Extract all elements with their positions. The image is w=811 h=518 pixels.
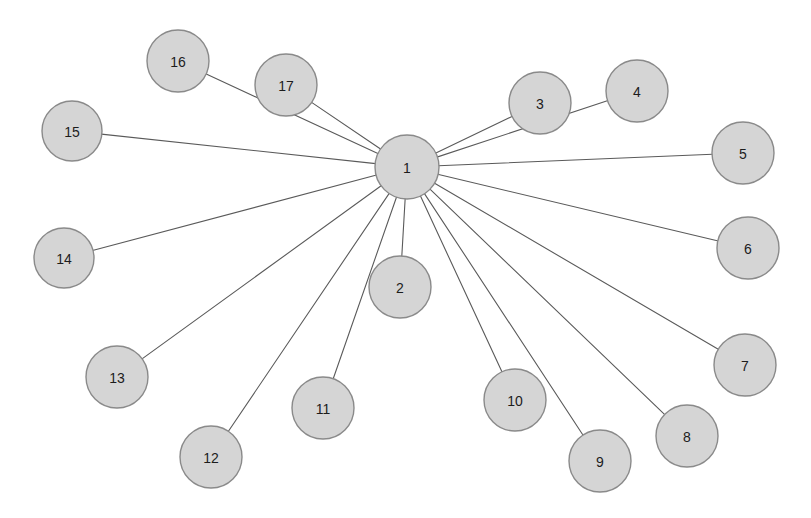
edge-1-5 bbox=[438, 154, 712, 165]
graph-node-8[interactable]: 8 bbox=[656, 405, 718, 467]
graph-node-3[interactable]: 3 bbox=[509, 72, 571, 134]
node-label-8: 8 bbox=[683, 429, 691, 445]
graph-node-15[interactable]: 15 bbox=[42, 101, 102, 161]
graph-node-13[interactable]: 13 bbox=[86, 346, 148, 408]
node-label-4: 4 bbox=[633, 84, 641, 100]
node-label-9: 9 bbox=[596, 454, 604, 470]
node-label-17: 17 bbox=[278, 78, 294, 94]
node-label-6: 6 bbox=[744, 241, 752, 257]
node-label-13: 13 bbox=[109, 370, 125, 386]
graph-node-12[interactable]: 12 bbox=[180, 426, 242, 488]
graph-node-6[interactable]: 6 bbox=[717, 217, 779, 279]
edge-1-7 bbox=[434, 183, 719, 350]
node-label-12: 12 bbox=[203, 450, 219, 466]
edge-1-10 bbox=[420, 196, 502, 373]
edge-1-2 bbox=[402, 198, 405, 256]
graph-node-11[interactable]: 11 bbox=[292, 377, 354, 439]
edge-1-17 bbox=[311, 102, 381, 149]
graph-node-1[interactable]: 1 bbox=[375, 135, 439, 199]
graph-node-14[interactable]: 14 bbox=[34, 228, 94, 288]
node-label-5: 5 bbox=[739, 146, 747, 162]
node-label-14: 14 bbox=[56, 251, 72, 267]
edges-layer bbox=[93, 74, 719, 436]
graph-node-2[interactable]: 2 bbox=[369, 256, 431, 318]
node-label-10: 10 bbox=[507, 393, 523, 409]
graph-node-10[interactable]: 10 bbox=[484, 369, 546, 431]
node-label-7: 7 bbox=[741, 358, 749, 374]
graph-node-9[interactable]: 9 bbox=[569, 430, 631, 492]
graph-node-4[interactable]: 4 bbox=[606, 60, 668, 122]
graph-node-17[interactable]: 17 bbox=[255, 54, 317, 116]
graph-node-16[interactable]: 16 bbox=[147, 30, 209, 92]
node-label-16: 16 bbox=[170, 54, 186, 70]
graph-node-7[interactable]: 7 bbox=[714, 334, 776, 396]
node-label-2: 2 bbox=[396, 280, 404, 296]
edge-1-13 bbox=[142, 185, 382, 359]
node-label-1: 1 bbox=[403, 160, 411, 176]
nodes-layer: 1234567891011121314151617 bbox=[34, 30, 779, 492]
edge-1-3 bbox=[435, 116, 512, 153]
edge-1-6 bbox=[438, 174, 719, 241]
edge-1-14 bbox=[93, 175, 377, 250]
edge-1-15 bbox=[101, 134, 375, 163]
node-label-15: 15 bbox=[64, 124, 80, 140]
node-label-3: 3 bbox=[536, 96, 544, 112]
network-diagram: 1234567891011121314151617 bbox=[0, 0, 811, 518]
graph-node-5[interactable]: 5 bbox=[712, 122, 774, 184]
node-label-11: 11 bbox=[316, 401, 331, 417]
